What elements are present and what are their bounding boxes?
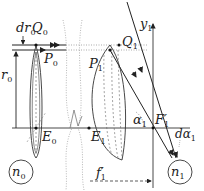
label-dalpha1: dα1 (175, 127, 196, 143)
label-f1prime: f′1 (95, 165, 106, 182)
ray-converge-2 (110, 50, 172, 158)
label-n1: n1 (171, 164, 184, 181)
label-n0: n0 (12, 164, 25, 181)
label-F1prime: F′1 (154, 112, 169, 129)
label-P0: P0 (43, 51, 58, 68)
label-E0: E0 (41, 129, 57, 146)
label-alpha1: α1 (133, 112, 147, 129)
label-E1: E1 (90, 129, 106, 146)
point-Q0 (34, 43, 37, 46)
label-y1: y1 (139, 16, 152, 33)
label-r0: r0 (1, 67, 12, 84)
label-Q1: Q1 (122, 34, 138, 51)
label-Q0: Q0 (32, 20, 48, 37)
point-Q1 (117, 43, 120, 46)
point-F1prime (152, 127, 155, 130)
optics-diagram: dr0 Q0 P0 r0 E0 P1 Q1 y1 α1 F′1 E1 dα1 f… (0, 0, 204, 191)
point-E0 (34, 126, 37, 129)
point-P1 (108, 48, 111, 51)
